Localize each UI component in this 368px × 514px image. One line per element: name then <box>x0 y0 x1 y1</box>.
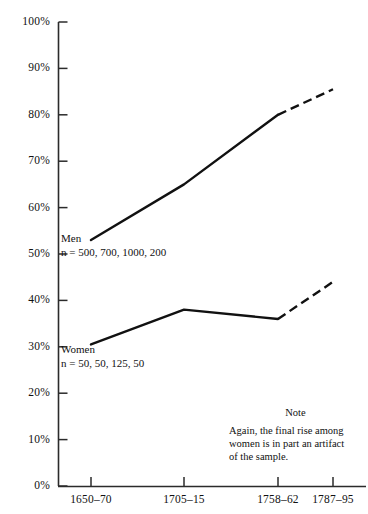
y-axis-tick-label: 10% <box>4 433 50 445</box>
y-axis-tick-label: 40% <box>4 293 50 305</box>
series-label-men-name: Men <box>61 232 166 246</box>
y-axis-tick-label: 100% <box>4 15 50 27</box>
x-axis-ticks <box>91 477 333 486</box>
line-chart: 100%90%80%70%60%50%40%30%20%10%0% 1650–7… <box>0 0 368 514</box>
series-label-women-name: Women <box>61 343 144 357</box>
note-title: Note <box>229 406 362 419</box>
series-label-men: Men n = 500, 700, 1000, 200 <box>61 232 166 259</box>
note-body-line-1: Again, the final rise among <box>229 424 362 437</box>
series-label-women-n: n = 50, 50, 125, 50 <box>61 357 144 371</box>
note-body-line-2: women is in part an artifact <box>229 437 362 450</box>
x-axis-tick-label: 1705–15 <box>163 493 205 505</box>
series-line-men-solid <box>91 115 278 240</box>
y-axis-tick-label: 90% <box>4 61 50 73</box>
y-axis-tick-label: 50% <box>4 247 50 259</box>
x-axis-tick-label: 1758–62 <box>257 493 299 505</box>
series-line-men-dashed <box>278 89 333 115</box>
y-axis-tick-label: 30% <box>4 340 50 352</box>
y-axis-tick-label: 0% <box>4 479 50 491</box>
x-axis-tick-label: 1787–95 <box>312 493 354 505</box>
y-axis-tick-label: 20% <box>4 386 50 398</box>
note-annotation: Note Again, the final rise among women i… <box>229 406 362 463</box>
x-axis-tick-label: 1650–70 <box>70 493 112 505</box>
y-axis-tick-label: 60% <box>4 201 50 213</box>
series-lines <box>91 89 333 344</box>
note-body-line-3: of the sample. <box>229 450 362 463</box>
y-axis-tick-label: 70% <box>4 154 50 166</box>
series-label-men-n: n = 500, 700, 1000, 200 <box>61 246 166 260</box>
y-axis-tick-label: 80% <box>4 108 50 120</box>
series-line-women-dashed <box>278 282 333 319</box>
series-line-women-solid <box>91 310 278 345</box>
series-label-women: Women n = 50, 50, 125, 50 <box>61 343 144 370</box>
